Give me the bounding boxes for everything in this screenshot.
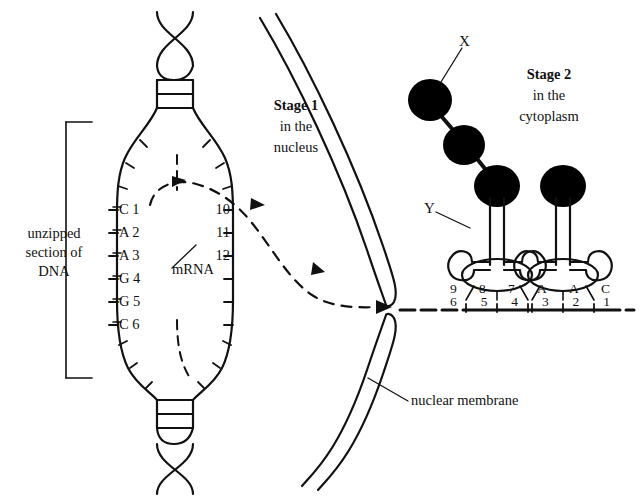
dna-base-letter: G	[119, 293, 129, 309]
unzipped-dna-line1: unzipped	[6, 224, 102, 243]
polypeptide-bead	[540, 165, 586, 207]
dna-right-number: 10	[206, 198, 230, 221]
codon-cell: 2	[573, 294, 580, 310]
polypeptide-bead	[443, 125, 485, 165]
dna-base-row: G 5	[119, 290, 140, 313]
codon-cell: 6	[450, 294, 457, 310]
nuclear-membrane-label: nuclear membrane	[411, 392, 518, 409]
polypeptide-bead	[474, 165, 520, 207]
codon-cell: 4	[511, 294, 518, 310]
dna-top-helix	[157, 12, 193, 108]
dna-base-number: 1	[132, 201, 139, 217]
dna-base-row: A 2	[119, 221, 140, 244]
diagram-canvas: unzipped section of DNA C 1 A 2 A 3 G 4 …	[0, 0, 644, 503]
mrna-label: mRNA	[172, 261, 214, 278]
dna-base-number: 6	[132, 316, 139, 332]
mrna-arrowheads	[172, 176, 392, 314]
stage2-line2: in the	[483, 85, 615, 106]
stage1-line3: nucleus	[240, 137, 352, 158]
leader-y	[436, 212, 470, 228]
dna-left-base-list: C 1 A 2 A 3 G 4 G 5 C 6	[119, 198, 140, 336]
codon-cell: 1	[603, 294, 610, 310]
dna-right-number: 11	[206, 221, 230, 244]
stage2-line3: cytoplasm	[483, 106, 615, 127]
dna-base-number: 2	[132, 224, 139, 240]
dna-base-number: 4	[133, 270, 140, 286]
unzipped-dna-line3: DNA	[6, 262, 102, 281]
stage2-heading: Stage 2	[483, 64, 615, 85]
nuclear-membrane-lower	[302, 314, 396, 490]
dna-base-number: 5	[133, 293, 140, 309]
dna-base-letter: C	[119, 316, 129, 332]
nuclear-membrane-upper	[260, 14, 396, 306]
stage2-label: Stage 2 in the cytoplasm	[483, 64, 615, 127]
codon-cell: 5	[481, 294, 488, 310]
dna-right-number-list: 10 11 12	[206, 198, 230, 267]
dna-base-row: G 4	[119, 267, 140, 290]
stage1-line2: in the	[240, 116, 352, 137]
unzipped-dna-label: unzipped section of DNA	[6, 224, 102, 281]
dna-base-letter: A	[119, 247, 129, 263]
leader-x	[441, 48, 462, 82]
codon-cell: 3	[542, 294, 549, 310]
dna-bottom-helix	[157, 400, 193, 494]
unzipped-dna-line2: section of	[6, 243, 102, 262]
mrna-transcript-path	[150, 182, 378, 307]
dna-base-row: C 6	[119, 313, 140, 336]
polypeptide-bead	[408, 79, 452, 121]
dna-base-number: 3	[132, 247, 139, 263]
dna-base-letter: C	[119, 201, 129, 217]
stage1-label: Stage 1 in the nucleus	[240, 95, 352, 158]
stage1-heading: Stage 1	[240, 95, 352, 116]
dna-base-row: A 3	[119, 244, 140, 267]
codon-row: 6 5 4 3 2 1	[450, 294, 610, 310]
dna-base-letter: G	[119, 270, 129, 286]
dna-base-row: C 1	[119, 198, 140, 221]
dna-base-letter: A	[119, 224, 129, 240]
x-label: X	[459, 33, 470, 50]
y-label: Y	[424, 200, 435, 217]
